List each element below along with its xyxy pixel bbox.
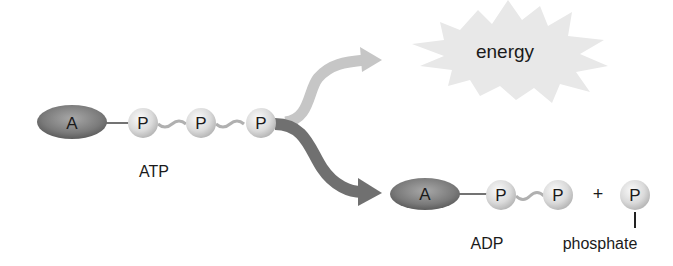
- energy-arrow: [285, 47, 382, 122]
- atp-adenosine-label: A: [66, 114, 78, 133]
- free-phosphate-label: P: [629, 186, 640, 205]
- adp-molecule: [390, 178, 573, 210]
- atp-phosphate-1-label: P: [137, 114, 148, 133]
- energy-label: energy: [476, 41, 535, 62]
- atp-hydrolysis-diagram: energy A P P P ATP A P P ADP + P phospha…: [0, 0, 673, 266]
- plus-sign: +: [593, 184, 604, 204]
- adp-phosphate-2-label: P: [552, 186, 563, 205]
- products-arrow: [275, 124, 382, 206]
- atp-label: ATP: [139, 163, 169, 180]
- adp-label: ADP: [471, 235, 504, 252]
- atp-phosphate-2-label: P: [195, 114, 206, 133]
- atp-phosphate-3-label: P: [255, 114, 266, 133]
- phosphate-label: phosphate: [563, 235, 638, 252]
- adp-adenosine-label: A: [419, 185, 431, 204]
- adp-phosphate-1-label: P: [495, 186, 506, 205]
